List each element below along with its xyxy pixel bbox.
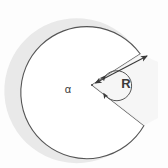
angle-label-alpha: α: [65, 83, 72, 95]
center-point-group: [91, 84, 93, 86]
sector-diagram-svg: α R: [0, 0, 168, 168]
diagram-canvas: α R: [0, 0, 168, 168]
center-point: [91, 84, 93, 86]
radius-label-R: R: [121, 76, 131, 91]
